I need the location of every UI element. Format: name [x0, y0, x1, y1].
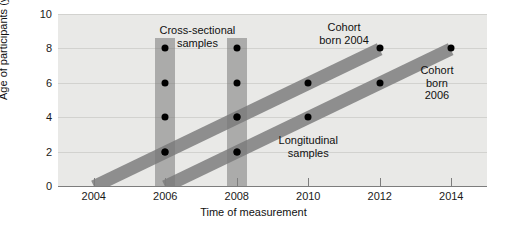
data-point-2006-age-4 [162, 114, 169, 121]
data-point-2010-age-4 [305, 114, 312, 121]
y-tick-label-4: 4 [46, 111, 52, 123]
data-point-2008-age-6 [233, 79, 240, 86]
gridline-y-10 [58, 14, 487, 15]
data-point-2012-age-6 [376, 79, 383, 86]
x-tick-label-2014: 2014 [439, 190, 463, 202]
x-axis-title: Time of measurement [0, 206, 507, 218]
cross-sectional-bar-2006 [155, 38, 175, 186]
data-point-2014-age-8 [448, 45, 455, 52]
annotation-cohort-born-2006: Cohort born 2006 [420, 64, 453, 102]
y-tick-label-0: 0 [46, 180, 52, 192]
y-tick-label-10: 10 [40, 8, 52, 20]
x-tick-label-2008: 2008 [225, 190, 249, 202]
figure-root: Age of participants (years) Cross-sectio… [0, 0, 507, 225]
data-point-2006-age-2 [162, 148, 169, 155]
x-tick-2010 [308, 178, 309, 187]
annotation-cohort-born-2004: Cohort born 2004 [319, 21, 369, 46]
annotation-cross-sectional-samples: Cross-sectional samples [160, 24, 236, 49]
y-axis-title: Age of participants (years) [0, 0, 9, 100]
data-point-2008-age-2 [233, 148, 240, 155]
x-tick-2014 [451, 178, 452, 187]
cross-sectional-bar-2008 [227, 38, 247, 186]
y-tick-label-6: 6 [46, 77, 52, 89]
x-axis-line [58, 186, 487, 187]
annotation-longitudinal-samples: Longitudinal samples [279, 134, 338, 159]
x-tick-2006 [165, 178, 166, 187]
x-tick-label-2006: 2006 [153, 190, 177, 202]
gridline-y-2 [58, 152, 487, 153]
x-tick-label-2004: 2004 [82, 190, 106, 202]
x-tick-2004 [94, 178, 95, 187]
x-tick-2008 [237, 178, 238, 187]
data-point-2008-age-4 [233, 114, 240, 121]
data-point-2012-age-8 [376, 45, 383, 52]
x-tick-2012 [380, 178, 381, 187]
y-tick-label-2: 2 [46, 146, 52, 158]
x-tick-label-2010: 2010 [296, 190, 320, 202]
gridline-y-8 [58, 48, 487, 49]
x-tick-label-2012: 2012 [368, 190, 392, 202]
gridline-y-4 [58, 117, 487, 118]
data-point-2010-age-6 [305, 79, 312, 86]
plot-area: Cross-sectional samplesCohort born 2004C… [58, 14, 487, 186]
y-tick-label-8: 8 [46, 42, 52, 54]
data-point-2006-age-6 [162, 79, 169, 86]
